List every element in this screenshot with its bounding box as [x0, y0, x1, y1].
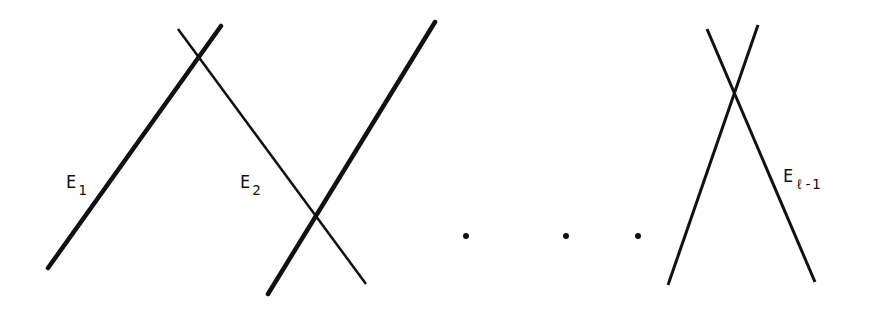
label-sub: ℓ-1 — [795, 176, 820, 192]
label-base: E — [66, 172, 76, 192]
line-el1-left — [668, 25, 758, 285]
ellipsis-dot — [563, 233, 569, 239]
line-e1 — [48, 26, 221, 268]
lines-svg — [0, 0, 887, 311]
ellipsis-dot — [463, 233, 469, 239]
diagram-canvas: E1 E2 Eℓ-1 — [0, 0, 887, 311]
ellipsis-dot — [635, 233, 641, 239]
label-base: E — [240, 172, 250, 192]
label-sub: 1 — [78, 182, 86, 198]
label-e1: E1 — [66, 172, 87, 192]
label-base: E — [783, 166, 793, 186]
label-sub: 2 — [252, 182, 260, 198]
line-el1 — [707, 29, 815, 282]
line-e2 — [178, 29, 366, 284]
line-e3 — [268, 22, 435, 294]
label-e2: E2 — [240, 172, 261, 192]
label-el-1: Eℓ-1 — [783, 166, 821, 186]
